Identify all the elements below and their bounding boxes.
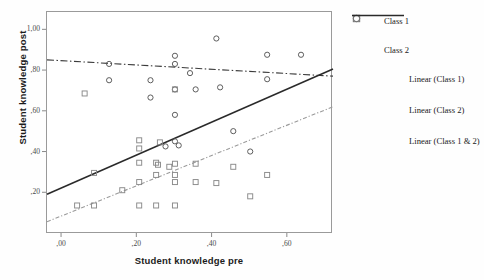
- legend-item-linear-class-2: Linear (Class 2): [352, 103, 482, 117]
- legend-label: Linear (Class 1 & 2): [409, 136, 480, 146]
- legend-label: Class 1: [384, 16, 409, 26]
- legend-label: Linear (Class 2): [409, 105, 464, 115]
- chart-legend: Class 1 Class 2 Linear (Class 1) Linear …: [352, 14, 482, 165]
- solid-line-icon: [352, 140, 404, 142]
- scatter-plot-figure: Student knowledge post Student knowledge…: [0, 0, 484, 280]
- dash-dot-line-icon: [352, 78, 404, 80]
- legend-label: Class 2: [384, 45, 409, 55]
- legend-label: Linear (Class 1): [409, 74, 464, 84]
- legend-item-linear-combined: Linear (Class 1 & 2): [352, 134, 482, 148]
- legend-item-class-2: Class 2: [352, 43, 482, 57]
- dotted-line-icon: [352, 109, 404, 111]
- legend-item-linear-class-1: Linear (Class 1): [352, 72, 482, 86]
